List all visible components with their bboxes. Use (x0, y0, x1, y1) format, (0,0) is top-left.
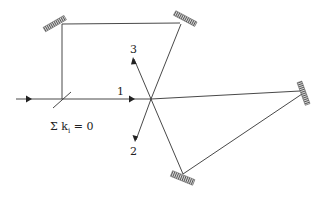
phase-matching-condition: Σ ki = 0 (50, 121, 93, 135)
beam-2-label: 2 (130, 146, 137, 157)
beam-to-right-mirror (151, 91, 300, 99)
beam-top-right-to-cross (151, 24, 181, 99)
beam-2 (136, 99, 151, 140)
right-mirror (297, 81, 310, 105)
beam-1-arrow-icon (129, 96, 135, 103)
beam-3-arrow-icon (131, 57, 137, 65)
beam-1-label: 1 (117, 86, 124, 97)
beam-cross-to-bottom-mirror (151, 99, 183, 174)
input-arrow-icon (26, 96, 32, 103)
condition-suffix: = 0 (70, 120, 93, 133)
top-right-mirror (173, 11, 197, 27)
phase-matching-diagram: 1 3 2 Σ ki = 0 (0, 0, 324, 200)
condition-prefix: Σ k (50, 120, 68, 133)
optical-layout (0, 0, 324, 200)
top-beam (62, 23, 180, 24)
beam-3 (134, 59, 151, 99)
beam-3-label: 3 (130, 44, 137, 55)
beam-bottom-to-right-mirror (183, 94, 302, 174)
